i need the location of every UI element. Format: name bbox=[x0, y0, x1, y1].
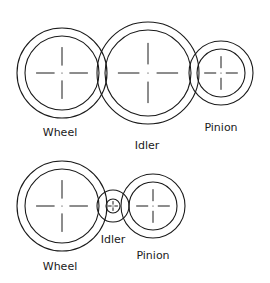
gear-pinion: Pinion bbox=[121, 174, 185, 262]
gear-label-pinion: Pinion bbox=[204, 121, 237, 134]
gear-pinion: Pinion bbox=[189, 41, 253, 134]
gear-label-wheel: Wheel bbox=[43, 260, 77, 273]
gear-label-idler: Idler bbox=[101, 233, 126, 246]
bottom-gear-train: WheelIdlerPinion bbox=[17, 161, 185, 273]
centerline-cross-icon bbox=[136, 189, 170, 223]
gear-train-diagram: WheelIdlerPinion WheelIdlerPinion bbox=[0, 0, 270, 283]
gear-label-wheel: Wheel bbox=[43, 126, 77, 139]
gear-label-pinion: Pinion bbox=[136, 249, 169, 262]
gear-wheel: Wheel bbox=[17, 28, 107, 139]
centerline-cross-icon bbox=[118, 43, 178, 103]
centerline-cross-icon bbox=[36, 180, 88, 232]
gear-idler: Idler bbox=[97, 190, 129, 246]
gear-wheel: Wheel bbox=[17, 161, 107, 273]
centerline-cross-icon bbox=[108, 201, 118, 211]
centerline-cross-icon bbox=[204, 56, 238, 90]
centerline-cross-icon bbox=[36, 47, 88, 99]
top-gear-train: WheelIdlerPinion bbox=[17, 22, 253, 152]
gear-label-idler: Idler bbox=[135, 139, 160, 152]
gear-idler: Idler bbox=[97, 22, 199, 152]
